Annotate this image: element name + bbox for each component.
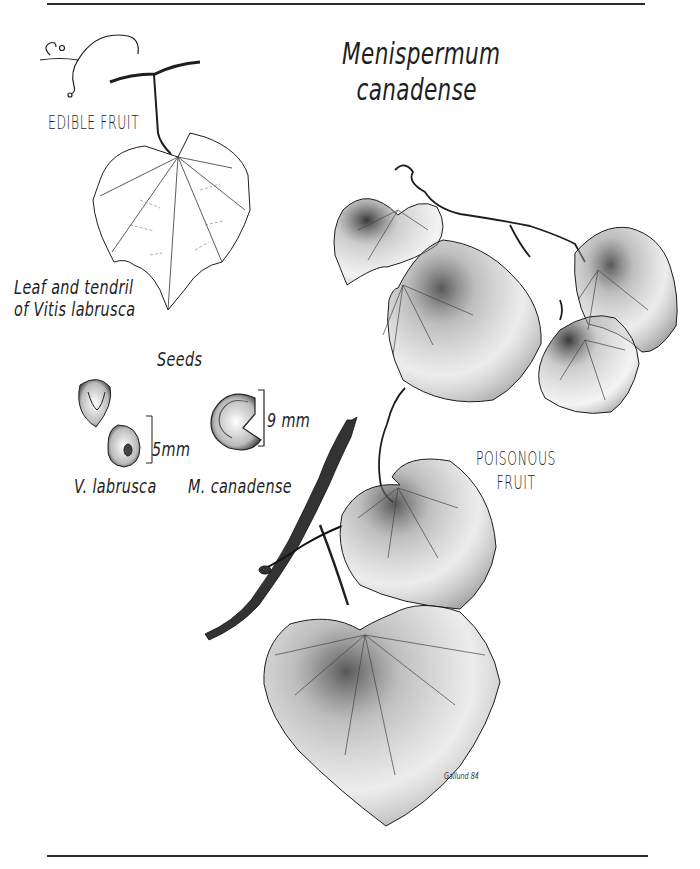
title-line-2: canadense — [342, 72, 500, 108]
seed-right-scale: 9 mm — [267, 408, 310, 432]
edible-fruit-label: EDIBLE FRUIT — [48, 110, 139, 134]
seed-left-label: V. labrusca — [74, 474, 157, 498]
seeds-heading: Seeds — [157, 347, 202, 371]
title-line-1: Menispermum — [342, 36, 500, 71]
leaf-caption-line-1: Leaf and tendril — [14, 275, 133, 299]
leaf-caption-line-2: of Vitis labrusca — [14, 298, 135, 320]
poisonous-line-1: POISONOUS — [476, 446, 556, 470]
artist-signature: Gallund 84 — [444, 772, 479, 781]
poisonous-line-2: FRUIT — [476, 470, 556, 494]
tendril-icon — [40, 35, 200, 165]
poisonous-fruit-label: POISONOUS FRUIT — [476, 446, 556, 494]
twig-icon — [205, 417, 357, 640]
leaf-caption: Leaf and tendril of Vitis labrusca — [14, 276, 135, 320]
seed-left-scale: 5mm — [152, 437, 190, 461]
page-title: Menispermum canadense — [342, 36, 500, 108]
seed-right-label: M. canadense — [188, 474, 292, 498]
seed-icon — [79, 379, 152, 467]
crescent-seed-icon — [211, 390, 264, 450]
bottom-rule — [47, 855, 648, 857]
moonseed-leaf-icon — [264, 199, 677, 826]
